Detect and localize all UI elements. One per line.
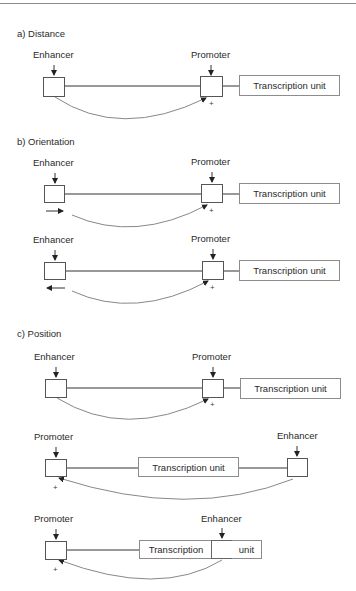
- plus-sign: +: [210, 284, 215, 292]
- transcription-unit-label: Transcription unit: [253, 80, 326, 91]
- enhancer-box: [43, 77, 65, 97]
- enhancer-box: [287, 458, 308, 477]
- promoter-box: [201, 184, 223, 203]
- transcription-unit-part2-label: unit: [239, 544, 254, 555]
- enhancer-label: Enhancer: [33, 235, 74, 245]
- transcription-unit-part1-box: Transcription: [139, 540, 212, 559]
- plus-sign: +: [209, 207, 214, 215]
- promoter-label: Promoter: [34, 514, 73, 524]
- transcription-unit-label: Transcription unit: [254, 383, 327, 394]
- transcription-unit-label: Transcription unit: [152, 462, 225, 473]
- enhancer-label: Enhancer: [277, 431, 318, 441]
- enhancer-label: Enhancer: [33, 158, 74, 168]
- transcription-unit-box: Transcription unit: [239, 183, 340, 204]
- section-b-title: b) Orientation: [17, 137, 75, 147]
- plus-sign: +: [209, 100, 214, 108]
- transcription-unit-box: Transcription unit: [239, 260, 340, 281]
- promoter-label: Promoter: [191, 157, 230, 167]
- plus-sign: +: [53, 566, 58, 574]
- transcription-unit-box: Transcription unit: [239, 75, 340, 96]
- promoter-box: [202, 261, 224, 280]
- promoter-label: Promoter: [192, 352, 231, 362]
- transcription-unit-label: Transcription unit: [253, 188, 326, 199]
- enhancer-box: [44, 185, 65, 203]
- enhancer-box: [211, 540, 233, 559]
- enhancer-box: [45, 379, 67, 398]
- promoter-box: [200, 76, 223, 97]
- enhancer-label: Enhancer: [34, 352, 75, 362]
- transcription-unit-box: Transcription unit: [240, 378, 341, 399]
- promoter-box: [202, 379, 224, 398]
- plus-sign: +: [210, 401, 215, 409]
- section-c-title: c) Position: [17, 329, 61, 339]
- enhancer-label: Enhancer: [33, 50, 74, 60]
- promoter-label: Promoter: [191, 234, 230, 244]
- transcription-unit-label: Transcription unit: [253, 265, 326, 276]
- transcription-unit-box: Transcription unit: [138, 457, 239, 477]
- promoter-label: Promoter: [34, 432, 73, 442]
- transcription-unit-part1-label: Transcription: [149, 544, 204, 555]
- enhancer-box: [44, 262, 66, 280]
- transcription-unit-part2-box: unit: [232, 540, 262, 559]
- promoter-box: [45, 459, 67, 477]
- promoter-label: Promoter: [191, 50, 230, 60]
- promoter-box: [45, 541, 67, 560]
- plus-sign: +: [53, 484, 58, 492]
- section-a-title: a) Distance: [17, 29, 65, 39]
- enhancer-label: Enhancer: [201, 514, 242, 524]
